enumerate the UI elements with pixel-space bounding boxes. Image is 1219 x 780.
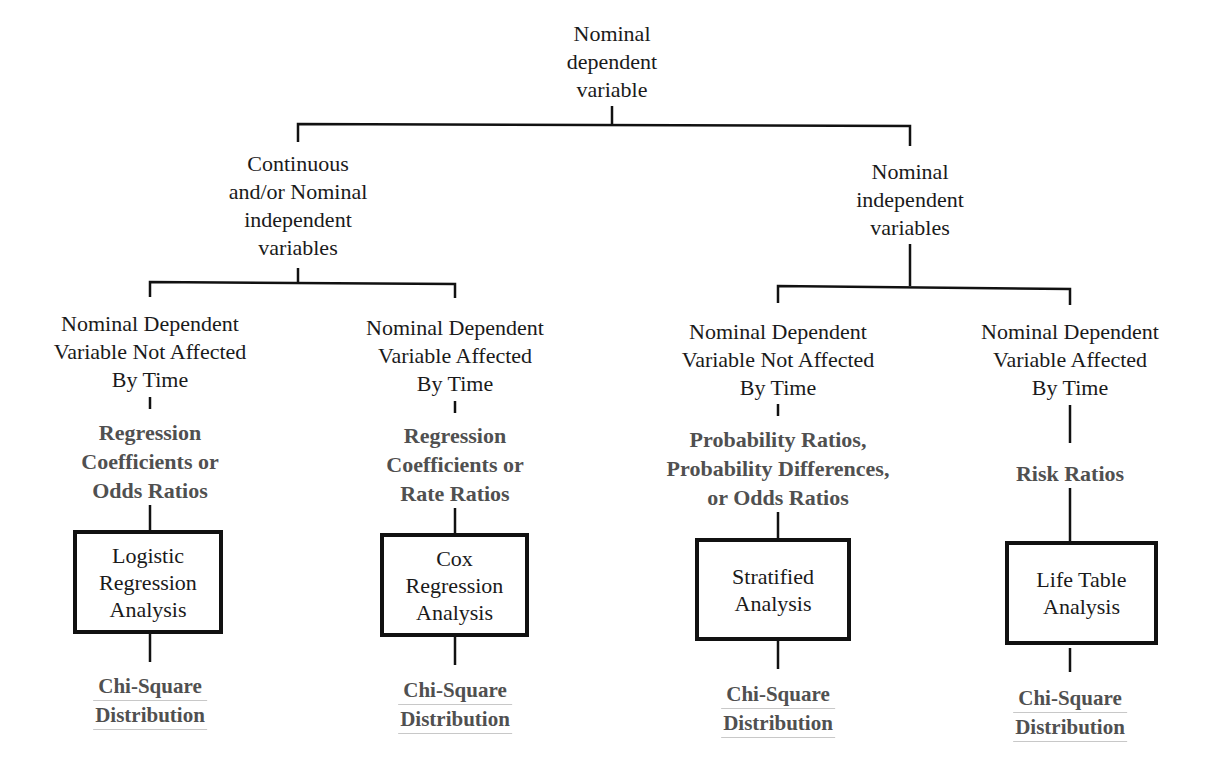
condition-line: Nominal Dependent <box>366 314 544 342</box>
distribution-line: Distribution <box>93 701 207 730</box>
condition-line: Variable Not Affected <box>682 346 875 374</box>
measure-line: Regression <box>81 418 218 447</box>
condition-not-affected-by-time: Nominal Dependent Variable Not Affected … <box>54 310 247 394</box>
branch-label-line: and/or Nominal <box>229 178 368 206</box>
root-line: dependent <box>567 48 657 76</box>
branch-label-line: Nominal <box>856 158 964 186</box>
measure-line: Coefficients or <box>386 450 523 479</box>
distribution-line: Chi-Square <box>93 672 207 701</box>
method-line: Analysis <box>416 599 493 626</box>
method-box-stratified-analysis: Stratified Analysis <box>695 538 851 641</box>
condition-line: Variable Not Affected <box>54 338 247 366</box>
method-line: Cox <box>436 545 473 572</box>
measure-line: Probability Differences, <box>667 454 890 483</box>
root-line: Nominal <box>567 20 657 48</box>
distribution-chi-square: Chi-Square Distribution <box>93 672 207 730</box>
measure-regression-rate: Regression Coefficients or Rate Ratios <box>386 421 523 508</box>
method-box-logistic-regression: Logistic Regression Analysis <box>73 530 223 634</box>
distribution-line: Chi-Square <box>1013 684 1127 713</box>
root-line: variable <box>567 76 657 104</box>
branch-label-line: variables <box>856 214 964 242</box>
branch-label-line: Continuous <box>229 150 368 178</box>
condition-affected-by-time: Nominal Dependent Variable Affected By T… <box>981 318 1159 402</box>
measure-line: or Odds Ratios <box>667 483 890 512</box>
method-line: Analysis <box>735 590 812 617</box>
method-line: Stratified <box>732 563 814 590</box>
branch-continuous-nominal: Continuous and/or Nominal independent va… <box>229 150 368 262</box>
measure-regression-odds: Regression Coefficients or Odds Ratios <box>81 418 218 505</box>
condition-affected-by-time: Nominal Dependent Variable Affected By T… <box>366 314 544 398</box>
distribution-chi-square: Chi-Square Distribution <box>398 676 512 734</box>
measure-line: Odds Ratios <box>81 476 218 505</box>
distribution-line: Distribution <box>1013 713 1127 742</box>
condition-line: By Time <box>981 374 1159 402</box>
condition-line: Variable Affected <box>366 342 544 370</box>
condition-line: Nominal Dependent <box>682 318 875 346</box>
method-line: Life Table <box>1036 566 1126 593</box>
distribution-line: Distribution <box>398 705 512 734</box>
measure-risk-ratios: Risk Ratios <box>1016 459 1124 488</box>
branch-nominal-independent: Nominal independent variables <box>856 158 964 242</box>
measure-line: Rate Ratios <box>386 479 523 508</box>
measure-line: Risk Ratios <box>1016 459 1124 488</box>
condition-line: By Time <box>682 374 875 402</box>
branch-label-line: independent <box>856 186 964 214</box>
measure-line: Probability Ratios, <box>667 425 890 454</box>
condition-line: Variable Affected <box>981 346 1159 374</box>
condition-line: By Time <box>54 366 247 394</box>
distribution-line: Chi-Square <box>721 680 835 709</box>
method-box-cox-regression: Cox Regression Analysis <box>380 533 529 637</box>
distribution-line: Chi-Square <box>398 676 512 705</box>
method-line: Analysis <box>1043 593 1120 620</box>
branch-label-line: independent <box>229 206 368 234</box>
measure-line: Coefficients or <box>81 447 218 476</box>
measure-probability-odds: Probability Ratios, Probability Differen… <box>667 425 890 512</box>
branch-label-line: variables <box>229 234 368 262</box>
condition-line: By Time <box>366 370 544 398</box>
distribution-chi-square: Chi-Square Distribution <box>721 680 835 738</box>
distribution-chi-square: Chi-Square Distribution <box>1013 684 1127 742</box>
method-line: Regression <box>406 572 504 599</box>
condition-line: Nominal Dependent <box>981 318 1159 346</box>
distribution-line: Distribution <box>721 709 835 738</box>
method-line: Logistic <box>112 542 184 569</box>
measure-line: Regression <box>386 421 523 450</box>
method-line: Regression <box>99 569 197 596</box>
condition-not-affected-by-time: Nominal Dependent Variable Not Affected … <box>682 318 875 402</box>
method-box-life-table-analysis: Life Table Analysis <box>1005 541 1158 645</box>
root-node: Nominal dependent variable <box>567 20 657 104</box>
condition-line: Nominal Dependent <box>54 310 247 338</box>
method-line: Analysis <box>110 596 187 623</box>
